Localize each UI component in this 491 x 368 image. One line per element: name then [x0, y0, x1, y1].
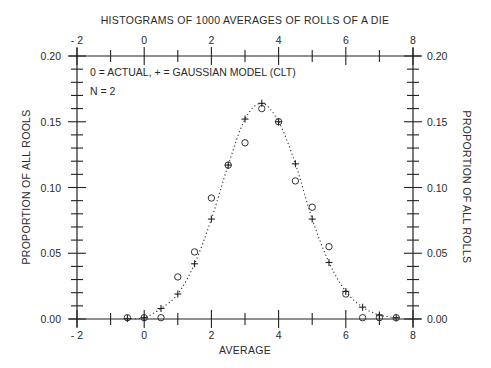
x-tick-label-top: - 2: [71, 34, 83, 46]
gaussian-point: [292, 160, 299, 167]
y-tick-label-left: 0.20: [41, 50, 62, 62]
series-layer: [124, 100, 400, 322]
chart-title: HISTOGRAMS OF 1000 AVERAGES OF ROLLS OF …: [101, 14, 390, 26]
gaussian-point: [242, 116, 249, 123]
actual-point: [359, 314, 365, 320]
axes: [69, 48, 421, 327]
actual-point: [208, 195, 214, 201]
gaussian-point: [359, 304, 366, 311]
y-tick-label-left: 0.15: [41, 116, 62, 128]
gaussian-point: [174, 291, 181, 298]
x-tick-label-top: 0: [141, 34, 147, 46]
annotation-legend: 0 = ACTUAL, + = GAUSSIAN MODEL (CLT): [90, 66, 296, 78]
y-tick-label-left: 0.10: [41, 182, 62, 194]
x-tick-label-bottom: 8: [410, 329, 416, 341]
y-tick-label-right: 0.10: [427, 182, 448, 194]
gaussian-point: [158, 305, 165, 312]
gaussian-model-curve: [127, 103, 396, 318]
tick-labels: - 2- 200224466880.000.000.050.050.100.10…: [41, 34, 448, 341]
y-axis-label-right: PROPORTION OF ALL ROLLS: [461, 111, 473, 264]
actual-point: [191, 249, 197, 255]
y-tick-label-right: 0.05: [427, 247, 448, 259]
x-tick-label-top: 4: [276, 34, 282, 46]
x-tick-label-bottom: 0: [141, 329, 147, 341]
y-tick-label-right: 0.00: [427, 313, 448, 325]
x-tick-label-bottom: 6: [343, 329, 349, 341]
gaussian-point: [309, 216, 316, 223]
actual-point: [158, 314, 164, 320]
gaussian-point: [258, 100, 265, 107]
chart: HISTOGRAMS OF 1000 AVERAGES OF ROLLS OF …: [0, 0, 491, 368]
x-tick-label-bottom: - 2: [71, 329, 83, 341]
y-tick-label-right: 0.15: [427, 116, 448, 128]
gaussian-point: [326, 259, 333, 266]
y-tick-label-left: 0.00: [41, 313, 62, 325]
annotation-n: N = 2: [90, 85, 116, 97]
gaussian-point: [208, 216, 215, 223]
x-tick-label-bottom: 4: [276, 329, 282, 341]
actual-point: [242, 140, 248, 146]
actual-point: [175, 274, 181, 280]
actual-point: [309, 204, 315, 210]
gaussian-point: [191, 260, 198, 267]
actual-point: [292, 178, 298, 184]
y-tick-label-left: 0.05: [41, 247, 62, 259]
x-axis-label: AVERAGE: [219, 344, 271, 356]
x-tick-label-top: 2: [208, 34, 214, 46]
x-tick-label-top: 8: [410, 34, 416, 46]
x-tick-label-bottom: 2: [208, 329, 214, 341]
x-tick-label-top: 6: [343, 34, 349, 46]
y-axis-label-left: PROPORTION OF ALL ROOLS: [20, 109, 32, 264]
actual-point: [326, 243, 332, 249]
gaussian-point: [376, 312, 383, 319]
y-tick-label-right: 0.20: [427, 50, 448, 62]
ticks: [68, 47, 422, 328]
